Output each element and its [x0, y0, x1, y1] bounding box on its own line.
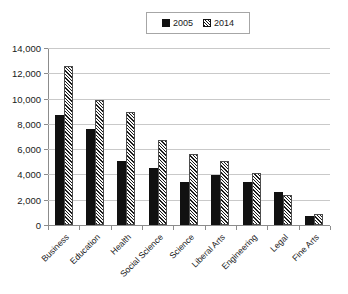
legend-label-2005: 2005: [173, 19, 193, 28]
bar-2014: [126, 112, 135, 225]
bar-group: [79, 48, 110, 225]
bar-2014: [189, 154, 198, 225]
bar-group: [267, 48, 298, 225]
legend-swatch-hatch-icon: [203, 19, 211, 27]
bar-2005: [117, 161, 126, 225]
chart-legend: 2005 2014: [146, 12, 250, 34]
bar-group: [48, 48, 79, 225]
y-axis-label: 6,000: [17, 144, 41, 155]
x-axis-category-labels: BusinessEducationHealthSocial ScienceSci…: [0, 228, 348, 288]
bar-group: [142, 48, 173, 225]
legend-swatch-solid-icon: [162, 19, 170, 27]
category-label: Business: [0, 232, 71, 294]
bar-2005: [86, 129, 95, 225]
bar-2014: [158, 140, 167, 225]
bar-2005: [305, 216, 314, 225]
y-axis-label: 2,000: [17, 194, 41, 205]
legend-entry-2005: 2005: [162, 19, 193, 28]
bar-2014: [64, 66, 73, 225]
bar-group: [205, 48, 236, 225]
bar-chart: 2005 2014 02,0004,0006,0008,00010,00012,…: [0, 0, 348, 294]
legend-entry-2014: 2014: [203, 19, 234, 28]
bar-2014: [252, 173, 261, 225]
bar-groups: [48, 48, 330, 225]
bar-group: [111, 48, 142, 225]
bar-group: [173, 48, 204, 225]
bar-group: [299, 48, 330, 225]
y-axis-label: 4,000: [17, 169, 41, 180]
legend-label-2014: 2014: [214, 19, 234, 28]
bar-2005: [149, 168, 158, 225]
bar-2014: [220, 161, 229, 225]
bar-2014: [283, 195, 292, 225]
bar-2005: [211, 175, 220, 225]
bar-2014: [314, 214, 323, 225]
y-axis-label: 8,000: [17, 118, 41, 129]
bar-2005: [55, 115, 64, 225]
bar-2014: [95, 100, 104, 225]
bar-2005: [180, 182, 189, 225]
bar-2005: [274, 192, 283, 225]
y-axis-label: 10,000: [12, 93, 41, 104]
plot-area: 02,0004,0006,0008,00010,00012,00014,000: [48, 48, 330, 225]
y-axis-label: 12,000: [12, 68, 41, 79]
y-axis-label: 14,000: [12, 43, 41, 54]
bar-group: [236, 48, 267, 225]
bar-2005: [243, 182, 252, 225]
